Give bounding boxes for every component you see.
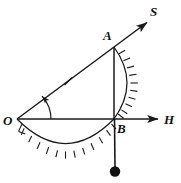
geometry-diagram-svg: O A B S H — [0, 0, 181, 183]
diagram-canvas: O A B S H — [0, 0, 181, 183]
graduated-arc-AB — [114, 47, 138, 119]
label-ray-H: H — [163, 112, 175, 127]
graduated-arc-OB — [17, 119, 116, 159]
label-ray-S: S — [150, 4, 157, 19]
graduated-arc-AB-curve — [114, 47, 127, 119]
plumb-line — [115, 119, 116, 168]
label-origin-O: O — [3, 113, 13, 128]
label-point-A: A — [102, 28, 112, 43]
plumb-bob-icon — [110, 166, 120, 176]
label-point-B: B — [116, 121, 126, 136]
graduated-arc-OB-curve — [17, 119, 114, 144]
hatch-mark-icon — [65, 78, 73, 86]
